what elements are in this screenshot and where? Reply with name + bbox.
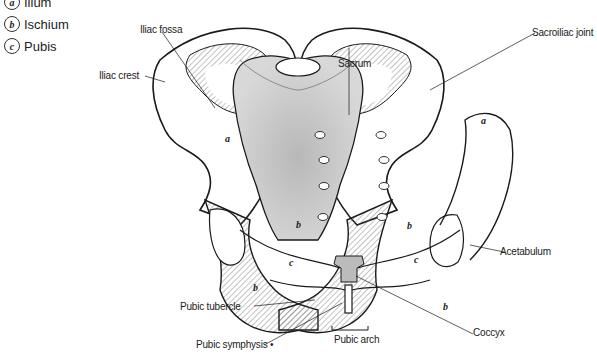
label-sacrum: Sacrum bbox=[338, 58, 371, 69]
pubic-symphysis bbox=[345, 285, 352, 313]
region-letter-right-ilium: a bbox=[481, 115, 486, 126]
right-acetabulum bbox=[430, 215, 464, 267]
region-letter-left-ilium: a bbox=[225, 133, 230, 144]
label-pubic-symphysis: Pubic symphysis • bbox=[196, 339, 273, 350]
sacral-promontory bbox=[276, 58, 320, 76]
label-iliac-crest: Iliac crest bbox=[99, 70, 139, 81]
label-acetabulum: Acetabulum bbox=[500, 246, 551, 257]
pelvis-illustration bbox=[0, 0, 597, 362]
region-letter-right-ischium-upper: b bbox=[407, 220, 412, 231]
region-letter-right-ischium-lower: b bbox=[443, 301, 448, 312]
label-pubic-arch: Pubic arch bbox=[334, 334, 379, 345]
region-letter-right-pubis: c bbox=[414, 254, 418, 265]
region-letter-left-pubis: c bbox=[289, 257, 293, 268]
label-iliac-fossa: Iliac fossa bbox=[140, 24, 182, 35]
label-sacroiliac-joint: Sacroiliac joint bbox=[532, 27, 593, 38]
label-coccyx: Coccyx bbox=[473, 327, 505, 338]
region-letter-left-ischium-upper: b bbox=[296, 219, 301, 230]
sacrum bbox=[233, 56, 363, 240]
label-pubic-tubercle: Pubic tubercle bbox=[180, 301, 241, 312]
region-letter-left-ischium-lower: b bbox=[253, 282, 258, 293]
